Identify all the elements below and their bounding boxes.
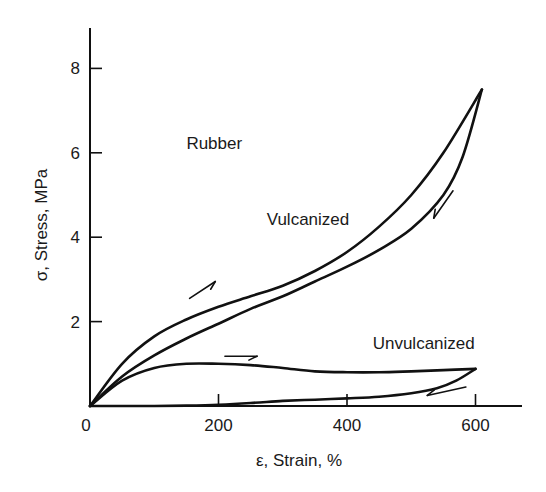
- y-axis-ticks: 2468: [71, 59, 102, 331]
- annotation-unvulcanized: Unvulcanized: [373, 334, 475, 353]
- x-tick-label: 600: [461, 416, 489, 435]
- y-tick-label: 2: [71, 313, 80, 332]
- stress-strain-chart: 2468 200400600 0 ε, Strain, % σ, Stress,…: [0, 0, 546, 492]
- annotation-rubber: Rubber: [186, 134, 242, 153]
- vulcanized-loading-arrow-icon: [190, 282, 216, 299]
- unvulcanized-loading-arrow-icon: [225, 356, 257, 360]
- x-tick-label: 400: [333, 416, 361, 435]
- y-tick-label: 4: [71, 228, 80, 247]
- x-axis-ticks: 200400600: [204, 394, 489, 435]
- curves: [90, 90, 482, 407]
- origin-tick-label: 0: [81, 416, 90, 435]
- y-tick-label: 8: [71, 59, 80, 78]
- unvulcanized-unloading-curve: [90, 369, 476, 406]
- x-tick-label: 200: [204, 416, 232, 435]
- x-axis-title: ε, Strain, %: [256, 451, 342, 470]
- vulcanized-unloading-curve: [90, 90, 482, 407]
- annotation-vulcanized: Vulcanized: [267, 210, 350, 229]
- y-tick-label: 6: [71, 144, 80, 163]
- y-axis-title: σ, Stress, MPa: [32, 168, 51, 281]
